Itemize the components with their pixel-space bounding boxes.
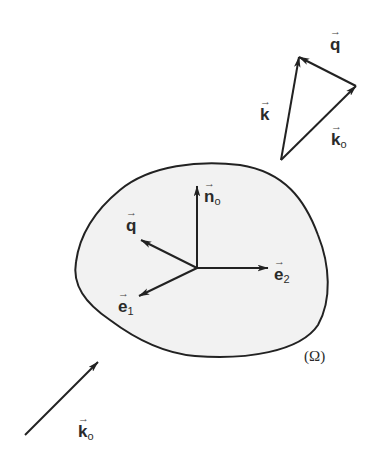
triangle-k0-symbol: k — [331, 131, 340, 148]
triangle-k-symbol: k — [260, 106, 269, 123]
scattering-diagram: no e2 e1 q q k ko ko (Ω) — [0, 0, 370, 464]
e2-subscript: 2 — [283, 273, 289, 285]
n0-label: no — [204, 188, 221, 207]
q-local-label: q — [126, 217, 136, 234]
triangle-k-label: k — [260, 106, 269, 123]
e1-subscript: 1 — [127, 305, 133, 317]
triangle-q-label: q — [330, 36, 340, 53]
n0-subscript: o — [214, 195, 220, 207]
triangle-k0-label: ko — [331, 131, 347, 150]
triangle-q-arrow — [299, 57, 356, 86]
q-local-symbol: q — [126, 217, 136, 234]
e2-symbol: e — [274, 266, 283, 283]
n0-symbol: n — [204, 188, 214, 205]
incident-k0-subscript: o — [87, 430, 93, 442]
triangle-q-symbol: q — [330, 36, 340, 53]
diagram-graphics — [0, 0, 370, 464]
region-omega-label: (Ω) — [304, 348, 325, 365]
incident-k0-symbol: k — [78, 423, 87, 440]
e1-symbol: e — [118, 298, 127, 315]
domain-omega-boundary — [75, 163, 327, 357]
triangle-k0-subscript: o — [340, 138, 346, 150]
incident-k0-label: ko — [78, 423, 94, 442]
e1-label: e1 — [118, 298, 134, 317]
e2-label: e2 — [274, 266, 290, 285]
